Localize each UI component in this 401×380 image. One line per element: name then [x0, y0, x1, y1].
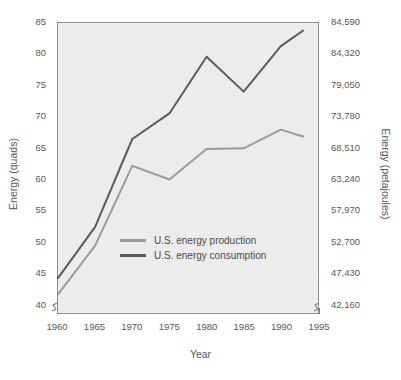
y-axis-right-title: Energy (petajoules): [380, 114, 392, 234]
x-tick-label-1985: 1985: [234, 322, 255, 332]
y-tick-label-right-9: 84,590: [331, 17, 360, 27]
energy-line-chart: Energy (quads) Energy (petajoules) Year …: [0, 0, 401, 380]
legend-label-production: U.S. energy production: [154, 235, 256, 246]
y-tick-label-left-65: 65: [12, 143, 46, 153]
y-tick-label-left-55: 55: [12, 206, 46, 216]
y-tick-label-right-4: 63,240: [331, 174, 360, 184]
y-tick-label-right-2: 52,700: [331, 237, 360, 247]
y-tick-label-left-40: 40: [12, 300, 46, 310]
y-tick-label-left-50: 50: [12, 237, 46, 247]
x-tick-label-1990: 1990: [271, 322, 292, 332]
y-tick-label-right-0: 42,160: [331, 300, 360, 310]
y-tick-label-right-3: 57,970: [331, 206, 360, 216]
y-tick-label-left-70: 70: [12, 111, 46, 121]
y-tick-label-left-60: 60: [12, 174, 46, 184]
legend-item-consumption: U.S. energy consumption: [120, 248, 266, 263]
y-tick-label-left-75: 75: [12, 80, 46, 90]
y-tick-label-right-5: 68,510: [331, 143, 360, 153]
y-tick-label-right-1: 47,430: [331, 268, 360, 278]
x-tick-label-1960: 1960: [46, 322, 67, 332]
left-axis-break-icon: [50, 300, 64, 314]
y-tick-label-left-45: 45: [12, 268, 46, 278]
legend-swatch-production: [120, 239, 146, 242]
x-axis-title: Year: [0, 348, 401, 360]
data-lines: [58, 23, 318, 313]
y-tick-label-right-6: 73,780: [331, 111, 360, 121]
legend-label-consumption: U.S. energy consumption: [154, 250, 266, 261]
legend-item-production: U.S. energy production: [120, 233, 266, 248]
plot-area: [57, 22, 319, 314]
series-line-production: [58, 130, 303, 295]
right-axis-break-icon: [312, 300, 326, 314]
x-tick-label-1995: 1995: [308, 322, 329, 332]
chart-legend: U.S. energy production U.S. energy consu…: [120, 233, 266, 263]
y-tick-label-right-8: 84,320: [331, 49, 360, 59]
y-tick-label-right-7: 79,050: [331, 80, 360, 90]
x-tick-label-1970: 1970: [121, 322, 142, 332]
x-tick-label-1975: 1975: [159, 322, 180, 332]
y-tick-label-left-80: 80: [12, 49, 46, 59]
x-tick-label-1980: 1980: [196, 322, 217, 332]
y-tick-label-left-85: 85: [12, 17, 46, 27]
x-tick-label-1965: 1965: [84, 322, 105, 332]
legend-swatch-consumption: [120, 254, 146, 257]
